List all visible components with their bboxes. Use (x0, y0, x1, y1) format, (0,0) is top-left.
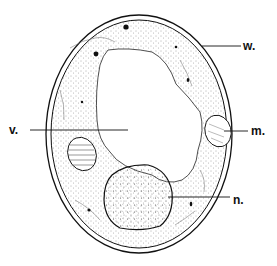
cell-diagram: w. v. m. n. (0, 0, 277, 266)
label-v: v. (9, 123, 18, 137)
label-w: w. (242, 39, 255, 53)
label-m: m. (251, 124, 265, 138)
nucleus (104, 165, 172, 230)
label-n: n. (233, 193, 244, 207)
